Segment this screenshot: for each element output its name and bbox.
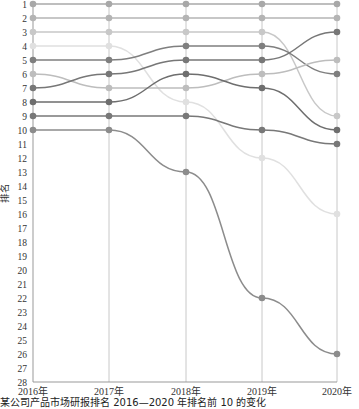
y-tick-label: 5	[22, 56, 27, 66]
data-point	[30, 99, 37, 106]
data-point	[183, 169, 190, 176]
data-point	[30, 85, 37, 92]
data-point	[183, 99, 190, 106]
y-tick-label: 18	[18, 238, 28, 248]
data-point	[259, 15, 266, 22]
data-point	[183, 15, 190, 22]
y-tick-label: 2	[22, 14, 27, 24]
data-point	[30, 43, 37, 50]
y-tick-label: 7	[22, 84, 27, 94]
data-point	[30, 127, 37, 134]
data-point	[106, 15, 113, 22]
data-point	[106, 1, 113, 8]
y-tick-label: 1	[22, 0, 27, 10]
y-tick-label: 27	[18, 364, 28, 374]
data-point	[334, 57, 341, 64]
data-point	[334, 127, 341, 134]
series-line	[33, 130, 337, 354]
y-tick-label: 3	[22, 28, 27, 38]
y-axis-label: 排名	[0, 183, 10, 203]
data-point	[183, 85, 190, 92]
data-point	[183, 113, 190, 120]
y-tick-label: 9	[22, 112, 27, 122]
y-tick-label: 11	[18, 140, 27, 150]
y-tick-label: 14	[18, 182, 28, 192]
y-tick-label: 12	[18, 154, 28, 164]
y-tick-label: 10	[18, 126, 28, 136]
data-point	[106, 127, 113, 134]
x-tick-label: 2020年	[322, 385, 352, 397]
data-point	[334, 141, 341, 148]
data-point	[334, 29, 341, 36]
data-point	[106, 99, 113, 106]
y-tick-label: 25	[18, 336, 28, 346]
y-tick-label: 6	[22, 70, 27, 80]
y-tick-label: 20	[18, 266, 28, 276]
data-point	[183, 29, 190, 36]
data-point	[30, 71, 37, 78]
data-point	[183, 57, 190, 64]
y-tick-label: 4	[22, 42, 27, 52]
y-tick-label: 21	[18, 280, 28, 290]
y-tick-label: 8	[22, 98, 27, 108]
data-point	[183, 43, 190, 50]
y-tick-label: 23	[18, 308, 28, 318]
y-tick-label: 22	[18, 294, 28, 304]
data-point	[106, 85, 113, 92]
chart-caption: 某公司产品市场研报排名 2016—2020 年排名前 10 的变化	[0, 394, 266, 409]
data-point	[30, 15, 37, 22]
data-point	[334, 1, 341, 8]
data-point	[183, 1, 190, 8]
data-point	[259, 29, 266, 36]
data-point	[259, 1, 266, 8]
data-point	[259, 71, 266, 78]
data-point	[334, 15, 341, 22]
y-tick-label: 17	[18, 224, 28, 234]
y-tick-label: 15	[18, 196, 28, 206]
y-tick-label: 24	[18, 322, 28, 332]
y-tick-label: 13	[18, 168, 28, 178]
data-point	[334, 113, 341, 120]
y-tick-label: 26	[18, 350, 28, 360]
data-point	[259, 57, 266, 64]
y-tick-label: 19	[18, 252, 28, 262]
data-point	[259, 85, 266, 92]
data-point	[259, 43, 266, 50]
data-point	[259, 127, 266, 134]
data-point	[106, 43, 113, 50]
y-tick-label: 16	[18, 210, 28, 220]
data-point	[106, 29, 113, 36]
data-point	[259, 155, 266, 162]
data-point	[30, 29, 37, 36]
data-point	[334, 71, 341, 78]
data-point	[183, 71, 190, 78]
data-point	[30, 57, 37, 64]
data-point	[334, 211, 341, 218]
data-point	[259, 295, 266, 302]
data-point	[106, 57, 113, 64]
data-point	[30, 113, 37, 120]
data-point	[106, 71, 113, 78]
data-point	[106, 113, 113, 120]
data-point	[334, 351, 341, 358]
data-point	[30, 1, 37, 8]
